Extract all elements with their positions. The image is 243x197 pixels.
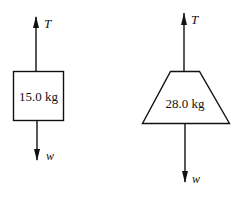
body-block-15kg: T 15.0 kg w [14, 16, 64, 163]
mass-label-left: 15.0 kg [19, 89, 59, 104]
tension-label-left: T [44, 16, 52, 31]
tension-label-right: T [191, 12, 199, 27]
weight-label-left: w [46, 149, 54, 163]
body-trapezoid-28kg: T 28.0 kg w [143, 12, 230, 186]
weight-arrowhead-left [34, 149, 40, 161]
weight-arrowhead-right [182, 171, 188, 183]
diagram-canvas: T 15.0 kg w T 28.0 kg w [0, 0, 243, 197]
weight-label-right: w [192, 172, 200, 186]
mass-label-right: 28.0 kg [166, 96, 206, 111]
tension-arrowhead-right [181, 13, 187, 25]
tension-arrowhead-left [33, 16, 39, 28]
